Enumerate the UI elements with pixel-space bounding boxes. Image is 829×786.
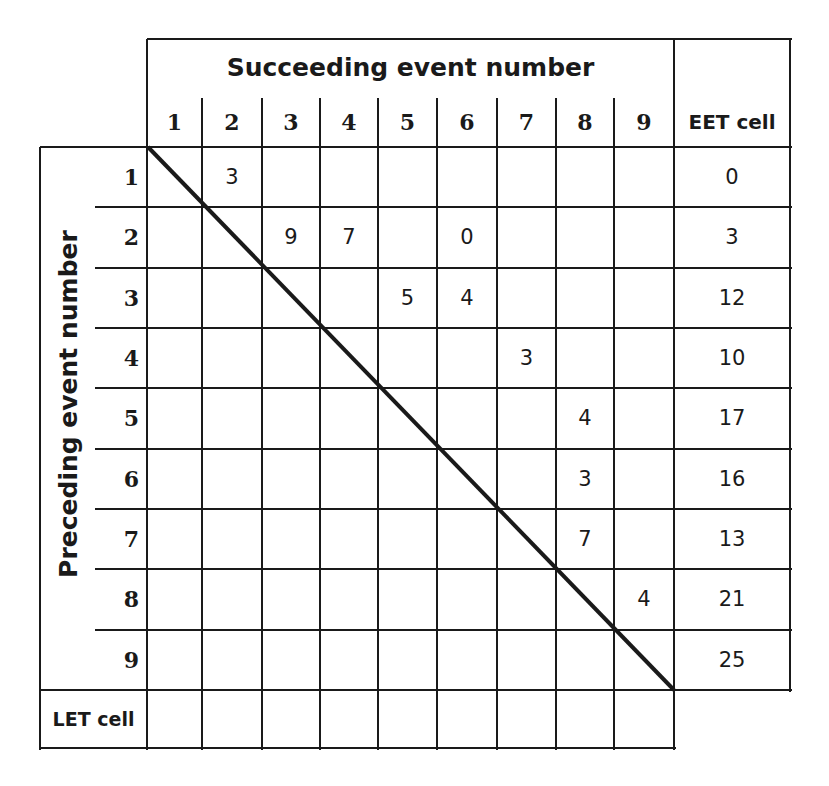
diagonal-line (0, 0, 829, 786)
